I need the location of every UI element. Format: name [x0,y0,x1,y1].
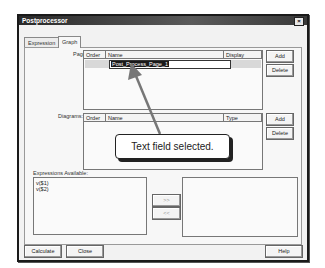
annotation-callout: Text field selected. [115,134,230,159]
